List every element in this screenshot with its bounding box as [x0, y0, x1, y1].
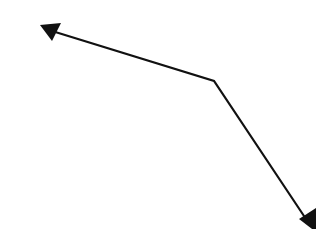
bent-double-arrow-diagram [0, 0, 316, 229]
bent-connector-line [52, 31, 306, 219]
